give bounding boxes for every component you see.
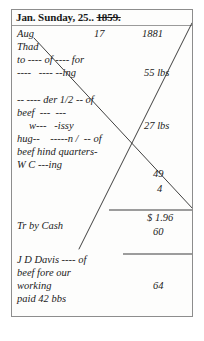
printed-date-header: Jan. Sunday, 25.. 1859. <box>12 10 192 26</box>
handwritten-line-7: beef hind quarters- <box>17 146 98 157</box>
screenshot-root: Jan. Sunday, 25.. 1859. Aug171881 Thadto… <box>0 0 204 341</box>
handwritten-line-8: W C ---ing <box>17 159 62 170</box>
handwritten-line-11: beef fore our <box>17 267 71 278</box>
page-title: Jan. Sunday, 25.. 1859. <box>16 11 121 23</box>
handwritten-line-5: w--- -issy <box>29 120 74 131</box>
amount-value-4: $ 1.96 <box>147 212 173 223</box>
handwritten-line-1: to ---- of ---- for <box>17 54 84 65</box>
amount-value-5: 60 <box>153 226 164 237</box>
handwritten-line-6: hug-- -----n / -- of <box>17 133 102 144</box>
amount-value-0: 55 lbs <box>144 67 169 78</box>
handwritten-line-4: beef --- --- <box>17 107 66 118</box>
ledger-page-card: Jan. Sunday, 25.. 1859. Aug171881 Thadto… <box>11 9 193 317</box>
header-date-text: Jan. Sunday, 25.. <box>16 11 94 23</box>
handwritten-line-13: paid 42 bbs <box>17 293 66 304</box>
entry-date-part-0: Aug <box>17 28 34 39</box>
entry-date-part-2: 1881 <box>142 28 163 39</box>
amount-value-2: 49 <box>153 168 164 179</box>
amount-value-1: 27 lbs <box>144 120 169 131</box>
handwritten-line-3: -- ---- der 1/2 -- of <box>17 94 94 105</box>
amount-value-6: 64 <box>153 280 164 291</box>
handwritten-line-2: ---- ---- --ing <box>17 67 76 78</box>
handwritten-line-9: Tr by Cash <box>17 220 63 231</box>
handwritten-line-0: Thad <box>17 41 39 52</box>
handwritten-line-10: J D Davis ---- of <box>17 254 86 265</box>
amount-value-3: 4 <box>157 183 162 194</box>
header-struck-year: 1859. <box>96 11 120 23</box>
handwritten-line-12: working <box>17 280 51 291</box>
entry-date-part-1: 17 <box>94 28 105 39</box>
